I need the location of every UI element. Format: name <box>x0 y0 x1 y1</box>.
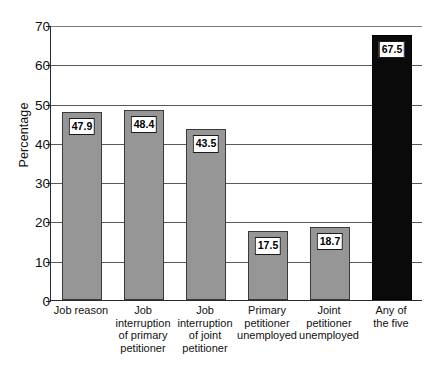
y-tick-label-30: 30 <box>10 176 50 191</box>
y-tick-label-70: 70 <box>10 19 50 34</box>
y-tick-label-20: 20 <box>10 215 50 230</box>
x-axis-label-line: Job reason <box>50 304 112 317</box>
x-axis-label-line: Job <box>174 304 236 317</box>
y-tick-label-10: 10 <box>10 254 50 269</box>
x-axis-label-line: the five <box>360 317 422 330</box>
bar-value-label: 43.5 <box>193 135 219 153</box>
x-axis-label-line: of joint <box>174 329 236 342</box>
bar-value-label: 47.9 <box>69 118 95 136</box>
bar-value-label: 17.5 <box>255 237 281 255</box>
x-axis-label: Jointpetitionerunemployed <box>298 304 360 342</box>
x-axis-label: Jobinterruptionof jointpetitioner <box>174 304 236 354</box>
x-axis-label-line: Any of <box>360 304 422 317</box>
bars-group: 47.948.443.517.518.767.5 <box>51 26 422 300</box>
x-axis-label-line: Job <box>112 304 174 317</box>
bar-value-label: 67.5 <box>379 41 405 59</box>
x-axis-label-line: of primary <box>112 329 174 342</box>
y-tick-label-50: 50 <box>10 97 50 112</box>
bar-value-label: 18.7 <box>317 233 343 251</box>
x-axis-label: Primarypetitionerunemployed <box>236 304 298 342</box>
bar-chart: Percentage 47.948.443.517.518.767.5 0102… <box>0 0 434 370</box>
x-axis-label-line: Joint <box>298 304 360 317</box>
x-axis-label-line: unemployed <box>236 329 298 342</box>
bar: 17.5 <box>248 231 288 300</box>
x-axis-label-line: interruption <box>174 317 236 330</box>
x-axis-category-labels: Job reasonJobinterruptionof primarypetit… <box>50 304 422 368</box>
y-tick-label-40: 40 <box>10 136 50 151</box>
x-axis-label-line: petitioner <box>298 317 360 330</box>
y-tick-label-60: 60 <box>10 58 50 73</box>
x-axis-label: Job reason <box>50 304 112 317</box>
x-axis-label: Any ofthe five <box>360 304 422 329</box>
x-axis-label-line: petitioner <box>174 342 236 355</box>
bar: 47.9 <box>62 112 102 300</box>
x-axis-label: Jobinterruptionof primarypetitioner <box>112 304 174 354</box>
plot-area: 47.948.443.517.518.767.5 <box>50 26 422 301</box>
x-axis-label-line: unemployed <box>298 329 360 342</box>
bar-value-label: 48.4 <box>131 116 157 134</box>
bar: 43.5 <box>186 129 226 300</box>
bar: 18.7 <box>310 227 350 300</box>
bar: 67.5 <box>372 35 412 300</box>
x-axis-label-line: petitioner <box>236 317 298 330</box>
x-axis-label-line: interruption <box>112 317 174 330</box>
x-axis-label-line: petitioner <box>112 342 174 355</box>
bar: 48.4 <box>124 110 164 300</box>
x-axis-label-line: Primary <box>236 304 298 317</box>
y-tick-label-0: 0 <box>10 294 50 309</box>
